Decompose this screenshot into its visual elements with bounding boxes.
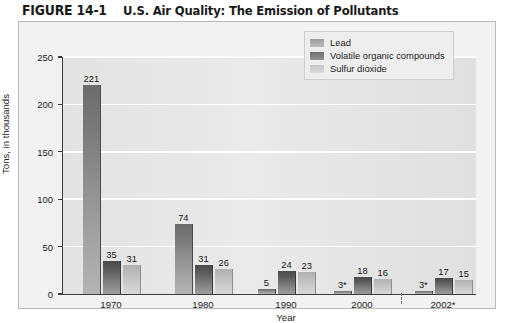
legend-label-lead: Lead	[330, 37, 351, 48]
bar-lead-2002: 3*	[415, 291, 433, 294]
legend-swatch-voc-icon	[310, 52, 324, 60]
x-tick-label: 1980	[192, 299, 213, 310]
legend-label-voc: Volatile organic compounds	[330, 50, 445, 61]
y-tick-label: 0	[19, 289, 53, 300]
gridline	[63, 104, 476, 106]
figure-number: FIGURE 14-1	[22, 2, 107, 18]
bar-value-label: 17	[438, 267, 448, 277]
bar-value-label: 24	[281, 260, 291, 270]
y-tick-label: 200	[19, 99, 53, 110]
figure-title: U.S. Air Quality: The Emission of Pollut…	[123, 3, 398, 18]
y-tick-label: 100	[19, 194, 53, 205]
gridline	[63, 198, 476, 200]
gridline	[63, 246, 476, 248]
bar-value-label: 16	[378, 268, 388, 278]
y-tick-label: 250	[19, 52, 53, 63]
bar-value-label: 74	[178, 213, 188, 223]
legend-label-so2: Sulfur dioxide	[330, 63, 387, 74]
bar-value-label: 3*	[338, 280, 347, 290]
bar-value-label: 35	[106, 250, 116, 260]
legend-item-lead: Lead	[310, 36, 445, 49]
bar-value-label: 23	[302, 261, 312, 271]
legend-swatch-so2-icon	[310, 65, 324, 73]
bar-so2-2000: 16	[374, 279, 392, 294]
figure-panel: Tons, in thousands 050100150200250 22135…	[18, 21, 496, 309]
bar-lead-1970: 221	[83, 85, 101, 295]
bar-value-label: 15	[459, 269, 469, 279]
y-tick-label: 50	[19, 241, 53, 252]
x-axis-break-marker	[401, 293, 402, 304]
y-axis-title: Tons, in thousands	[0, 94, 11, 174]
x-tick-label: 1970	[100, 299, 121, 310]
bar-so2-1970: 31	[123, 265, 141, 294]
bar-value-label: 5	[264, 278, 269, 288]
plot-area: 2213531743126524233*18163*1715	[62, 57, 476, 295]
legend-item-voc: Volatile organic compounds	[310, 49, 445, 62]
y-tick-label: 150	[19, 146, 53, 157]
bar-value-label: 31	[127, 254, 137, 264]
bar-value-label: 31	[198, 254, 208, 264]
bar-so2-2002: 15	[455, 280, 473, 294]
gridline	[63, 151, 476, 153]
bar-lead-1980: 74	[175, 224, 193, 294]
bar-lead-1990: 5	[258, 289, 276, 294]
bar-voc-1970: 35	[103, 261, 121, 294]
bar-voc-1980: 31	[195, 265, 213, 294]
bar-voc-1990: 24	[278, 271, 296, 294]
bar-value-label: 3*	[419, 280, 428, 290]
bar-so2-1980: 26	[215, 269, 233, 294]
x-tick-label: 2000	[351, 299, 372, 310]
legend-swatch-lead-icon	[310, 39, 324, 47]
bar-value-label: 26	[219, 258, 229, 268]
x-tick-label: 2002*	[430, 299, 455, 310]
bar-value-label: 18	[357, 266, 367, 276]
bar-lead-2000: 3*	[334, 291, 352, 294]
bar-so2-1990: 23	[298, 272, 316, 294]
x-tick-label: 1990	[275, 299, 296, 310]
x-axis-title: Year	[276, 312, 295, 323]
bar-value-label: 221	[84, 74, 100, 84]
bar-voc-2002: 17	[435, 278, 453, 294]
legend-item-so2: Sulfur dioxide	[310, 62, 445, 75]
chart-legend: Lead Volatile organic compounds Sulfur d…	[304, 31, 454, 80]
bar-voc-2000: 18	[354, 277, 372, 294]
figure-header: FIGURE 14-1 U.S. Air Quality: The Emissi…	[0, 0, 511, 20]
